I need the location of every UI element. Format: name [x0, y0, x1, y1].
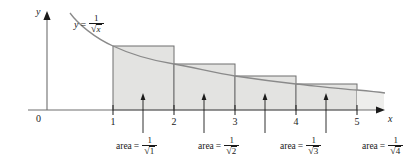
equation-fraction: 1 √ x [89, 14, 104, 34]
area-radical-3: √ 3 [308, 146, 319, 156]
area-equals-4: = [380, 141, 385, 151]
area-denominator-2: √ 2 [224, 146, 239, 156]
radical-group: √ x [91, 24, 102, 34]
tail-shade [357, 90, 384, 110]
x-tick-label-1: 1 [106, 116, 120, 127]
equation-numerator: 1 [92, 14, 101, 23]
area-word-1: area [116, 141, 132, 151]
x-tick-label-5: 5 [350, 116, 364, 127]
rectangle-3 [235, 76, 296, 110]
x-axis-label: x [388, 113, 392, 124]
area-radicand-2: 2 [231, 146, 238, 156]
rectangle-group [113, 46, 357, 110]
equation-lhs: y [74, 19, 78, 30]
area-word-2: area [198, 141, 214, 151]
area-fraction-1: 1 √ 1 [142, 136, 157, 156]
area-radicand-4: 4 [395, 146, 402, 156]
rectangle-2 [174, 64, 235, 110]
x-tick-label-3: 3 [228, 116, 242, 127]
area-radicand-1: 1 [149, 146, 156, 156]
area-equals-1: = [134, 141, 139, 151]
equation-equals: = [80, 19, 86, 30]
area-label-4: area = 1 √ 4 [362, 136, 404, 156]
area-numerator-4: 1 [391, 136, 400, 145]
area-denominator-3: √ 3 [306, 146, 321, 156]
area-radical-1: √ 1 [144, 146, 155, 156]
area-word-4: area [362, 141, 378, 151]
area-label-1: area = 1 √ 1 [116, 136, 158, 156]
leader-arrow-1 [141, 93, 146, 133]
leader-arrow-4 [324, 93, 329, 133]
x-tick-label-4: 4 [289, 116, 303, 127]
origin-label: 0 [36, 113, 41, 124]
x-tick-label-2: 2 [167, 116, 181, 127]
y-axis-arrow-icon [43, 11, 50, 20]
rectangle-1 [113, 46, 174, 110]
area-fraction-4: 1 √ 4 [388, 136, 403, 156]
area-numerator-3: 1 [309, 136, 318, 145]
area-equals-2: = [216, 141, 221, 151]
area-fraction-3: 1 √ 3 [306, 136, 321, 156]
area-equals-3: = [298, 141, 303, 151]
equation-denominator: √ x [89, 24, 104, 34]
area-numerator-1: 1 [145, 136, 154, 145]
area-radical-2: √ 2 [226, 146, 237, 156]
area-label-3: area = 1 √ 3 [280, 136, 322, 156]
area-word-3: area [280, 141, 296, 151]
area-denominator-4: √ 4 [388, 146, 403, 156]
leader-arrow-2 [202, 93, 207, 133]
figure-canvas: y x 0 1 2 3 4 5 y = 1 √ x area = 1 [0, 0, 407, 165]
curve-equation: y = 1 √ x [74, 14, 105, 34]
area-label-2: area = 1 √ 2 [198, 136, 240, 156]
area-numerator-2: 1 [227, 136, 236, 145]
area-radicand-3: 3 [313, 146, 320, 156]
area-fraction-2: 1 √ 2 [224, 136, 239, 156]
leader-arrow-3 [263, 93, 268, 133]
y-axis-label: y [36, 6, 40, 17]
radicand: x [96, 24, 102, 34]
area-radical-4: √ 4 [390, 146, 401, 156]
area-denominator-1: √ 1 [142, 146, 157, 156]
